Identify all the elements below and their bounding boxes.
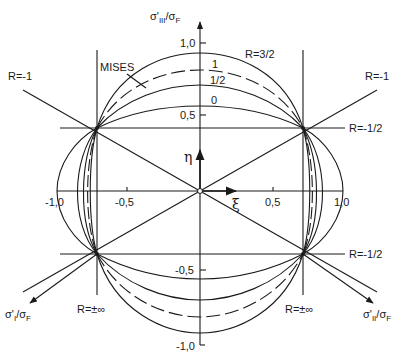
y-tick-minus05: -0,5 xyxy=(175,264,194,276)
y-tick-1: 1,0 xyxy=(180,37,195,49)
r-minus-half-lower-label: R=-1/2 xyxy=(349,248,382,260)
x-tick-minus1: -1,0 xyxy=(45,196,64,208)
eta-label: η xyxy=(184,149,192,165)
sigma-II-axis xyxy=(303,254,373,303)
origin-marker xyxy=(198,189,203,194)
yield-locus-diagram: σ'III/σF η ξ -1,0 -0,5 0,5 1,0 1,0 0,5 -… xyxy=(0,0,403,359)
y-tick-minus1: -1,0 xyxy=(176,340,195,352)
r-1-label: 1 xyxy=(212,58,218,70)
r-inf-left-label: R=±∞ xyxy=(77,303,105,315)
mises-label: MISES xyxy=(100,61,134,73)
sigma-II-label: σ'II/σF xyxy=(363,308,391,323)
sigma-I-label: σ'I/σF xyxy=(5,308,31,323)
r-0-label: 0 xyxy=(211,94,217,106)
xi-label: ξ xyxy=(232,196,240,212)
y-tick-05: 0,5 xyxy=(180,109,195,121)
x-tick-1: 1,0 xyxy=(334,196,349,208)
x-tick-minus05: -0,5 xyxy=(115,196,134,208)
x-tick-05: 0,5 xyxy=(265,196,280,208)
r-minus1-left-label: R=-1 xyxy=(8,70,32,82)
r-minus-half-upper-label: R=-1/2 xyxy=(349,122,382,134)
r-inf-right-label: R=±∞ xyxy=(285,303,313,315)
r-minus1-right-label: R=-1 xyxy=(365,70,389,82)
vertical-axis-title: σ'III/σF xyxy=(150,10,180,25)
r-1-2-label: 1/2 xyxy=(210,74,225,86)
sigma-I-axis xyxy=(30,254,97,303)
r-3-2-label: R=3/2 xyxy=(245,48,275,60)
